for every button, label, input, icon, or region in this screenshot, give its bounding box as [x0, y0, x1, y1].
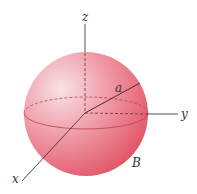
sphere-diagram: z y x a B — [0, 0, 197, 194]
diagram-canvas: z y x a B — [0, 0, 197, 194]
y-axis-label: y — [180, 107, 188, 121]
x-axis-label: x — [12, 172, 19, 186]
sphere-b — [24, 52, 148, 176]
radius-label: a — [115, 81, 122, 95]
z-axis-label: z — [81, 10, 89, 24]
region-label: B — [131, 156, 141, 170]
